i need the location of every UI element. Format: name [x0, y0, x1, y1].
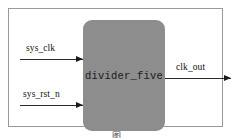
module-block-divider-five: divider_five	[83, 20, 165, 131]
figure-caption: 图	[0, 130, 233, 138]
output-arrowhead-clk-out	[224, 75, 231, 81]
input-wire-sys-rst-n	[20, 105, 83, 106]
input-arrowhead-sys-rst-n	[76, 102, 83, 108]
input-label-sys-clk: sys_clk	[26, 43, 55, 53]
output-wire-clk-out	[165, 78, 231, 79]
figure-canvas: divider_five sys_clk sys_rst_n clk_out 图	[0, 0, 233, 138]
input-label-sys-rst-n: sys_rst_n	[23, 89, 60, 99]
figure-caption-strip: 图	[0, 130, 233, 138]
module-block-label: divider_five	[83, 20, 165, 131]
input-wire-sys-clk	[20, 59, 83, 60]
input-arrowhead-sys-clk	[76, 56, 83, 62]
figure-border: divider_five sys_clk sys_rst_n clk_out	[8, 8, 223, 127]
output-label-clk-out: clk_out	[176, 62, 205, 72]
